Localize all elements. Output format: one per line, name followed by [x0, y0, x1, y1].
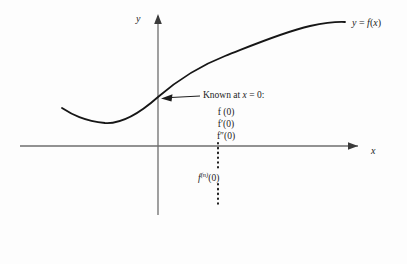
derivative-item-2: f″(0) — [193, 130, 259, 142]
nth-derivative-label: f(n)(0) — [198, 172, 219, 184]
y-axis-arrowhead — [154, 14, 162, 24]
derivative-item-0: f (0) — [193, 106, 259, 118]
y-axis-label: y — [136, 14, 140, 24]
derivative-item-1: f′(0) — [193, 118, 259, 130]
annotation-leader-line — [171, 96, 200, 98]
x-axis-label: x — [371, 146, 375, 156]
curve-label: y = f(x) — [352, 18, 381, 28]
figure-root: y x y = f(x) Known at x = 0: f (0) f′(0)… — [0, 0, 407, 264]
y-axis-group — [154, 14, 162, 215]
annotation-leader-arrow — [161, 94, 200, 101]
x-axis-group — [20, 142, 358, 150]
derivative-value-stack: f (0) f′(0) f″(0) — [193, 106, 259, 142]
annotation-arrowhead — [161, 94, 173, 101]
known-at-zero-heading: Known at x = 0: — [203, 91, 264, 101]
x-axis-arrowhead — [348, 142, 358, 150]
